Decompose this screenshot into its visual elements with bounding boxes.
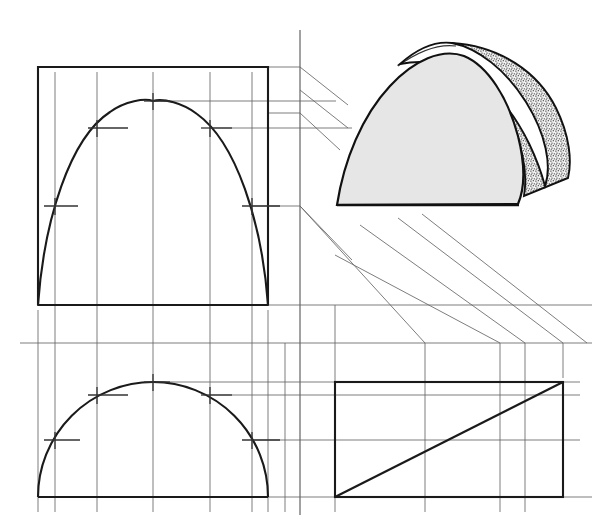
tick-mark	[242, 198, 280, 215]
horizontal-projectors-front	[153, 67, 352, 206]
front-view	[38, 93, 280, 305]
tick-mark	[242, 432, 280, 449]
bottom-view-tick-marks	[44, 374, 280, 449]
tick-mark	[144, 374, 170, 391]
miter-line	[398, 218, 563, 343]
leader-line	[300, 206, 352, 260]
tick-mark	[88, 387, 128, 404]
pictorial-half-dome-wedge	[337, 43, 570, 205]
miter-transfer-lines	[300, 206, 587, 343]
front-view-tick-marks	[44, 93, 280, 215]
tick-mark	[44, 198, 78, 215]
miter-line	[360, 225, 525, 343]
horizontal-projectors-bottom	[38, 305, 592, 497]
leader-line	[300, 67, 348, 105]
tick-mark	[144, 93, 170, 110]
leader-line	[300, 90, 348, 128]
leader-line	[300, 113, 340, 150]
technical-drawing-canvas	[0, 0, 608, 529]
miter-line	[335, 255, 500, 343]
orthographic-projection-drawing	[0, 0, 608, 529]
tick-mark	[88, 120, 128, 137]
vertical-projectors-side-view	[335, 305, 563, 512]
bottom-view	[38, 374, 280, 497]
vertical-ordinate-lines	[38, 72, 285, 512]
pictorial-leader-lines	[300, 67, 352, 260]
side-view-diagonal	[335, 382, 563, 497]
side-view-wedge-profile	[335, 382, 563, 497]
miter-line	[422, 214, 587, 343]
